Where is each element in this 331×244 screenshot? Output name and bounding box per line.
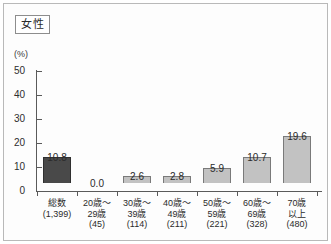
x-label-60-69-line2: 69歳 [237,209,277,220]
y-tick-label-30: 30 [0,113,25,124]
bar-70-plus [283,136,311,183]
x-label-40-49-line3: (211) [157,219,197,230]
y-tick-label-10: 10 [0,161,25,172]
bar-value-50-59: 5.9 [203,163,231,174]
x-label-20-29-line2: 29歳 [77,209,117,220]
x-label-50-59-line3: (221) [197,219,237,230]
x-tick-3 [157,192,158,196]
x-label-total: 総数 (1,399) [37,198,77,219]
x-label-60-69-line1: 60歳～ [237,198,277,209]
x-tick-4 [197,192,198,196]
x-label-20-29-line1: 20歳～ [77,198,117,209]
bar-value-30-39: 2.6 [123,171,151,182]
x-label-40-49-line2: 49歳 [157,209,197,220]
x-label-30-39-line3: (114) [117,219,157,230]
x-label-60-69: 60歳～ 69歳 (328) [237,198,277,230]
chart-frame: 女性 (%) 50 40 30 20 10 0 [3,3,328,241]
x-tick-7 [317,192,318,196]
plot-area: 50 40 30 20 10 0 10.8 0.0 2.6 2.8 5.9 10… [4,4,327,240]
x-label-30-39: 30歳～ 39歳 (114) [117,198,157,230]
x-label-total-line1: 総数 [37,198,77,209]
bar-value-60-69: 10.7 [243,152,271,163]
x-label-70-plus-line3: (480) [277,219,317,230]
x-tick-0 [37,192,38,196]
x-label-40-49: 40歳～ 49歳 (211) [157,198,197,230]
y-tick-40 [37,95,42,96]
y-tick-30 [37,119,42,120]
x-tick-2 [117,192,118,196]
x-label-total-line2: (1,399) [37,209,77,220]
x-axis-line [36,191,322,192]
x-label-50-59-line1: 50歳～ [197,198,237,209]
y-tick-label-0: 0 [0,185,25,196]
x-tick-6 [277,192,278,196]
y-tick-20 [37,143,42,144]
x-label-70-plus: 70歳 以上 (480) [277,198,317,230]
x-tick-5 [237,192,238,196]
y-tick-label-40: 40 [0,89,25,100]
y-tick-10 [37,167,42,168]
x-tick-1 [77,192,78,196]
y-tick-50 [37,71,42,72]
y-tick-label-20: 20 [0,137,25,148]
x-label-20-29-line3: (45) [77,219,117,230]
x-label-60-69-line3: (328) [237,219,277,230]
x-label-50-59-line2: 59歳 [197,209,237,220]
x-label-20-29: 20歳～ 29歳 (45) [77,198,117,230]
x-label-70-plus-line1: 70歳 [277,198,317,209]
x-label-50-59: 50歳～ 59歳 (221) [197,198,237,230]
y-axis-line [36,70,37,192]
x-label-30-39-line1: 30歳～ [117,198,157,209]
y-tick-label-50: 50 [0,65,25,76]
bar-value-70-plus: 19.6 [283,131,311,142]
x-label-70-plus-line2: 以上 [277,209,317,220]
bar-value-total: 10.8 [43,152,71,163]
x-label-30-39-line2: 39歳 [117,209,157,220]
x-label-40-49-line1: 40歳～ [157,198,197,209]
bar-value-40-49: 2.8 [163,171,191,182]
bar-value-20-29: 0.0 [83,178,111,189]
